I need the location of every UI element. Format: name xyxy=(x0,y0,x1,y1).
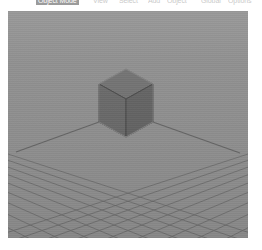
cube-object[interactable] xyxy=(99,69,153,137)
menu-item-global[interactable]: Global xyxy=(201,0,221,5)
menu-item-add[interactable]: Add xyxy=(148,0,160,5)
menu-item-options[interactable]: Options xyxy=(228,0,251,5)
menu-item-view[interactable]: View xyxy=(93,0,108,5)
scene-canvas[interactable] xyxy=(8,11,248,238)
menu-item-object-mode[interactable]: Object Mode xyxy=(36,0,79,5)
3d-viewport[interactable] xyxy=(8,11,248,238)
menu-bar: Object Mode View Select Add Object Globa… xyxy=(0,0,262,9)
menu-item-object[interactable]: Object xyxy=(167,0,187,5)
menu-item-select[interactable]: Select xyxy=(119,0,138,5)
